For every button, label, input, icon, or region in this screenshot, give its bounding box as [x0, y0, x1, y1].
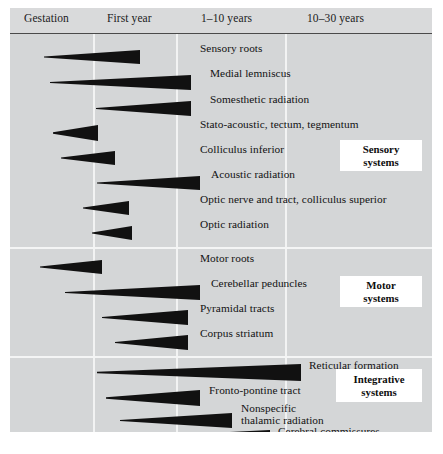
wedge-bar — [65, 285, 200, 300]
column-header-first-year: First year — [107, 12, 152, 24]
group-label-sensory-line1: Sensory — [363, 143, 400, 156]
chart-plot-area: Sensory rootsMedial lemniscusSomesthetic… — [10, 34, 432, 432]
wedge-bar — [83, 201, 129, 215]
wedge-bar — [50, 75, 191, 90]
wedge-bar — [102, 310, 188, 325]
group-label-motor-line2: systems — [363, 292, 398, 305]
column-header-gestation: Gestation — [24, 12, 69, 24]
wedge-bar — [92, 226, 132, 240]
row-label: Cerebellar peduncles — [211, 277, 307, 290]
group-label-motor-line1: Motor — [366, 279, 395, 292]
wedge-bar — [96, 101, 191, 116]
row-label-line: Nonspecific — [241, 402, 324, 414]
group-label-sensory: Sensory systems — [340, 140, 422, 171]
wedge-bar — [53, 125, 98, 141]
group-label-integrative-line1: Integrative — [354, 373, 405, 386]
row-label: Pyramidal tracts — [200, 302, 275, 315]
row-label: Nonspecificthalamic radiation — [241, 402, 324, 426]
row-label: Colliculus inferior — [200, 143, 284, 156]
section-divider-1 — [10, 247, 432, 249]
wedge-bar — [122, 430, 270, 432]
wedge-bar — [44, 50, 140, 64]
row-label: Sensory roots — [200, 42, 262, 55]
row-label: Corpus striatum — [200, 327, 273, 340]
section-divider-2 — [10, 356, 432, 358]
row-label: Medial lemniscus — [210, 67, 291, 80]
wedge-bar — [40, 260, 102, 274]
row-label: Motor roots — [200, 252, 254, 265]
column-header-1-10-years: 1–10 years — [201, 12, 252, 24]
wedge-bar — [106, 390, 200, 406]
group-label-integrative: Integrative systems — [336, 369, 422, 402]
column-header-10-30-years: 10–30 years — [307, 12, 364, 24]
row-label: Fronto-pontine tract — [209, 384, 301, 397]
wedge-bar — [61, 151, 115, 165]
group-label-sensory-line2: systems — [363, 156, 398, 169]
row-label: Stato-acoustic, tectum, tegmentum — [200, 118, 359, 131]
myelination-chart: Gestation First year 1–10 years 10–30 ye… — [10, 8, 432, 432]
chart-header-row: Gestation First year 1–10 years 10–30 ye… — [10, 8, 432, 34]
row-label: Optic nerve and tract, colliculus superi… — [200, 193, 387, 206]
row-label: Acoustic radiation — [211, 168, 295, 181]
wedge-bar — [97, 176, 200, 190]
wedge-bar — [115, 335, 188, 350]
group-label-motor: Motor systems — [340, 276, 422, 307]
row-label: Cerebral commissures — [278, 425, 380, 432]
row-label: Optic radiation — [200, 218, 269, 231]
row-label: Somesthetic radiation — [210, 93, 309, 106]
group-label-integrative-line2: systems — [361, 386, 396, 399]
wedge-bar — [97, 364, 301, 381]
